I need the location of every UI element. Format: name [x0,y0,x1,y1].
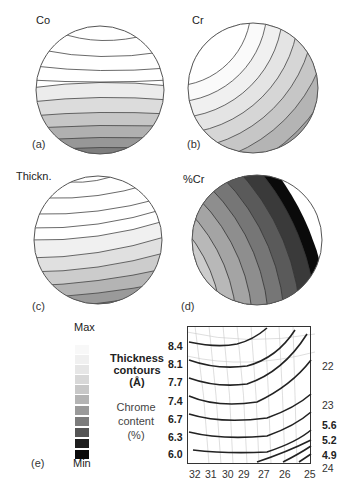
bottom-tick: 32 [189,468,201,480]
legend-swatch [75,335,89,344]
legend-swatch [75,365,89,374]
thickness-title: Thickness contours (Å) [104,352,170,388]
right-tick: 23 [322,399,334,411]
left-tick: 6.7 [168,413,183,425]
chrome-title: Chrome content (%) [106,400,166,442]
bottom-tick: 26 [279,468,291,480]
grayscale-legend [75,335,89,455]
legend-max-label: Max [74,321,95,333]
bottom-tick: 29 [238,468,250,480]
legend-swatch [75,395,89,404]
right-tick: 4.9 [322,449,337,461]
right-tick: 5.2 [322,434,337,446]
panel-b-label: (b) [187,138,200,150]
bottom-tick: 27 [258,468,270,480]
bottom-tick: 31 [205,468,217,480]
panel-a: Co (a) [0,0,175,160]
legend-swatch [75,355,89,364]
right-tick: 24 [322,462,334,474]
co-contour-map [30,20,170,160]
legend-swatch [75,428,89,437]
left-tick: 7.7 [168,376,183,388]
bottom-tick: 25 [304,468,316,480]
left-tick: 6.3 [168,431,183,443]
left-tick: 8.1 [168,358,183,370]
left-tick: 7.4 [168,395,183,407]
thickness-contour-plot [187,326,317,466]
panel-e: (e) Max Min Thickness contours (Å) Chrom… [0,320,350,485]
right-tick: 5.6 [322,419,337,431]
chrome-percent-contour-map [187,170,327,310]
legend-swatch [75,439,89,448]
legend-swatch [75,417,89,426]
legend-swatch [75,385,89,394]
legend-swatch [75,345,89,354]
panel-c-label: (c) [32,300,45,312]
legend-swatch [75,375,89,384]
cr-contour-map [183,18,323,158]
panel-d-label: (d) [181,300,194,312]
thickness-contour-map [28,170,168,310]
legend-swatch [75,406,89,415]
panel-c: Thickn. (c) [0,160,175,325]
left-tick: 6.0 [168,448,183,460]
panel-b: Cr (b) [175,0,350,160]
panel-d: %Cr (d) [175,160,350,325]
right-tick: 22 [322,360,334,372]
bottom-tick: 30 [222,468,234,480]
left-tick: 8.4 [168,340,183,352]
panel-e-label-text: (e) [31,457,44,469]
panel-a-label: (a) [32,138,45,150]
legend-min-label: Min [73,457,91,469]
